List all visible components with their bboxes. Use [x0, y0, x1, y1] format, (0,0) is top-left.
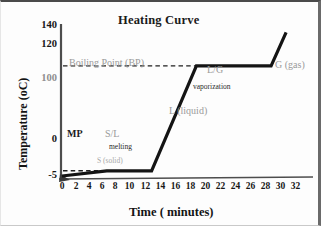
y-tick-140: 140 [29, 20, 57, 31]
heating-curve-svg [1, 2, 321, 226]
x-tick-2: 2 [69, 182, 83, 192]
chart-title: Heating Curve [118, 14, 199, 27]
x-tick-32: 32 [287, 182, 304, 192]
melting-label: melting [109, 143, 132, 151]
x-axis-line [59, 177, 313, 179]
x-tick-10: 10 [121, 182, 138, 192]
x-tick-0: 0 [55, 182, 69, 192]
gas-label: G (gas) [275, 60, 305, 70]
x-axis-title: Time ( minutes) [129, 206, 214, 219]
plot-area [1, 2, 318, 225]
melting-point-label: MP [67, 129, 83, 139]
x-tick-4: 4 [82, 182, 96, 192]
liquid-gas-label: L/G [207, 65, 223, 75]
y-tick-120: 120 [29, 39, 57, 50]
solid-liquid-label: S/L [105, 129, 119, 139]
x-tick-6: 6 [95, 182, 109, 192]
y-tick-100: 100 [29, 73, 57, 84]
solid-label: S (solid) [97, 157, 123, 165]
x-tick-8: 8 [108, 182, 122, 192]
vaporization-label: vaporization [193, 83, 231, 91]
y-tick-minus-5: -5 [29, 170, 57, 181]
y-tick-0: 0 [29, 134, 57, 145]
y-axis-title: Temperature (oC) [17, 78, 29, 170]
chart-figure: Heating Curve Temperature (oC) Time ( mi… [0, 0, 321, 226]
liquid-label: L (liquid) [169, 106, 207, 116]
boiling-point-label: Boiling Point (BP) [69, 58, 144, 68]
